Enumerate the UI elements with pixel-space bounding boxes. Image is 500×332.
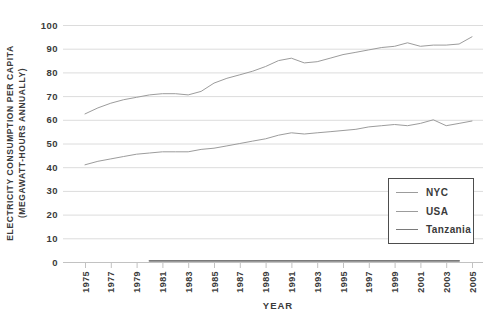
legend-item-usa: USA bbox=[396, 206, 473, 217]
svg-text:1981: 1981 bbox=[158, 271, 168, 293]
legend-label-nyc: NYC bbox=[426, 187, 448, 198]
svg-text:100: 100 bbox=[41, 20, 58, 31]
y-axis-title: ELECTRICITY CONSUMPTION PER CAPITA (MEGA… bbox=[3, 13, 29, 273]
svg-text:1993: 1993 bbox=[313, 271, 323, 293]
svg-text:50: 50 bbox=[46, 138, 58, 149]
y-axis-title-line2: (MEGAWATT-HOURS ANNUALLY) bbox=[16, 68, 28, 218]
svg-text:20: 20 bbox=[46, 209, 58, 220]
series-line-usa bbox=[85, 120, 472, 165]
svg-text:80: 80 bbox=[46, 67, 58, 78]
svg-text:1997: 1997 bbox=[364, 271, 374, 293]
svg-text:10: 10 bbox=[46, 233, 58, 244]
legend-item-tanzania: Tanzania bbox=[396, 224, 473, 235]
usa-line-swatch bbox=[396, 211, 418, 212]
svg-text:1999: 1999 bbox=[390, 271, 400, 293]
svg-text:1989: 1989 bbox=[261, 271, 271, 293]
legend-label-tanzania: Tanzania bbox=[426, 224, 471, 235]
svg-text:1977: 1977 bbox=[106, 271, 116, 293]
x-axis bbox=[63, 263, 483, 269]
svg-text:1987: 1987 bbox=[235, 271, 245, 293]
electricity-consumption-chart: 0102030405060708090100197519771979198119… bbox=[0, 0, 500, 332]
svg-text:1983: 1983 bbox=[184, 271, 194, 293]
x-axis-title: YEAR bbox=[218, 300, 338, 311]
svg-text:1979: 1979 bbox=[132, 271, 142, 293]
legend-label-usa: USA bbox=[426, 206, 448, 217]
svg-text:90: 90 bbox=[46, 43, 58, 54]
svg-text:2001: 2001 bbox=[416, 271, 426, 293]
svg-text:0: 0 bbox=[52, 257, 58, 268]
svg-text:2005: 2005 bbox=[468, 271, 478, 293]
svg-text:1975: 1975 bbox=[81, 271, 91, 293]
y-axis-title-line1: ELECTRICITY CONSUMPTION PER CAPITA bbox=[4, 45, 16, 240]
svg-text:30: 30 bbox=[46, 185, 58, 196]
svg-text:70: 70 bbox=[46, 91, 58, 102]
y-tick-labels: 0102030405060708090100 bbox=[41, 20, 58, 268]
x-tick-labels: 1975197719791981198319851987198919911993… bbox=[81, 271, 478, 293]
series-line-nyc bbox=[85, 37, 472, 114]
svg-text:2003: 2003 bbox=[442, 271, 452, 293]
tanzania-line-swatch bbox=[396, 229, 418, 230]
svg-text:40: 40 bbox=[46, 162, 58, 173]
legend: NYC USA Tanzania bbox=[388, 178, 474, 244]
nyc-line-swatch bbox=[396, 192, 418, 193]
svg-text:1995: 1995 bbox=[339, 271, 349, 293]
plot-area: 0102030405060708090100197519771979198119… bbox=[0, 0, 500, 332]
svg-text:1985: 1985 bbox=[210, 271, 220, 293]
svg-text:60: 60 bbox=[46, 114, 58, 125]
legend-item-nyc: NYC bbox=[396, 187, 473, 198]
svg-text:1991: 1991 bbox=[287, 271, 297, 293]
